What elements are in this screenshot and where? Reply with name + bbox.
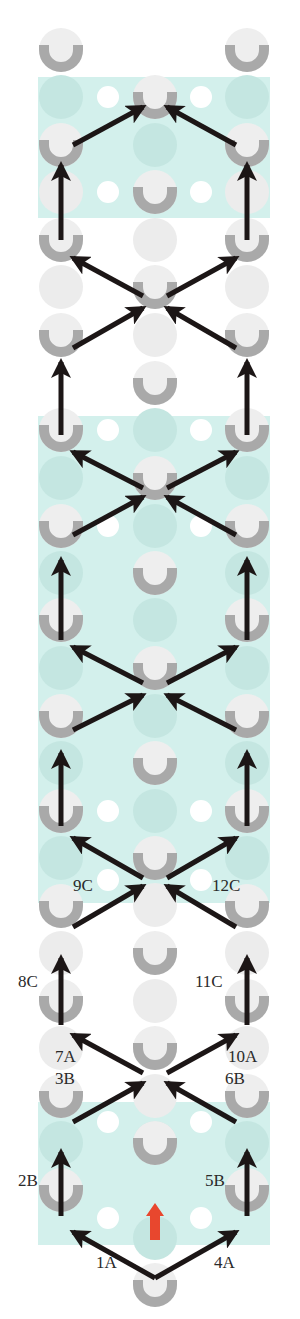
white-dot <box>190 1111 212 1133</box>
white-dot <box>190 181 212 203</box>
u-peg-icon <box>133 456 177 500</box>
u-peg-icon <box>39 694 83 738</box>
step-label: 11C <box>195 973 223 990</box>
u-peg-icon <box>39 504 83 548</box>
u-peg-icon <box>225 313 269 357</box>
band-circle <box>133 789 177 833</box>
ghost-circle <box>133 979 177 1023</box>
step-label: 10A <box>228 1048 257 1065</box>
u-peg-icon <box>225 694 269 738</box>
band-circle <box>39 646 83 690</box>
path-arrow <box>73 258 143 296</box>
u-peg-icon <box>133 265 177 309</box>
band-circle <box>39 456 83 500</box>
u-peg-icon <box>133 551 177 595</box>
step-label: 8C <box>18 973 38 990</box>
ghost-circle <box>225 265 269 309</box>
path-arrow <box>73 1035 143 1073</box>
u-peg-icon <box>225 504 269 548</box>
u-peg-icon <box>133 741 177 785</box>
band-circle <box>225 646 269 690</box>
white-dot <box>190 800 212 822</box>
white-dot <box>97 800 119 822</box>
ghost-circle <box>39 265 83 309</box>
u-peg-icon <box>133 75 177 119</box>
u-peg-icon <box>133 170 177 214</box>
u-peg-icon <box>133 1121 177 1165</box>
white-dot <box>97 869 119 891</box>
path-arrow <box>73 308 143 348</box>
white-dot <box>190 86 212 108</box>
ghost-circle <box>133 218 177 262</box>
step-label: 6B <box>225 1070 245 1087</box>
step-label: 9C <box>73 877 93 894</box>
path-arrow <box>167 308 236 348</box>
white-dot <box>97 181 119 203</box>
u-peg-icon <box>133 361 177 405</box>
band-circle <box>133 504 177 548</box>
stitch-path-diagram <box>0 0 300 1319</box>
u-peg-icon <box>133 931 177 975</box>
path-arrow <box>167 1035 236 1073</box>
step-label: 7A <box>55 1048 76 1065</box>
band-circle <box>133 408 177 452</box>
white-dot <box>97 419 119 441</box>
u-peg-icon <box>133 1026 177 1070</box>
u-peg-icon <box>225 28 269 72</box>
ghost-circle <box>133 313 177 357</box>
band-circle <box>133 598 177 642</box>
step-label: 2B <box>18 1172 38 1189</box>
u-peg-icon <box>39 28 83 72</box>
band-circle <box>225 456 269 500</box>
white-dot <box>190 869 212 891</box>
ghost-circle <box>133 1074 177 1118</box>
band-circle <box>133 694 177 738</box>
step-label: 12C <box>212 877 240 894</box>
white-dot <box>97 86 119 108</box>
white-dot <box>97 1207 119 1229</box>
u-peg-icon <box>39 313 83 357</box>
step-label: 4A <box>214 1254 235 1271</box>
white-dot <box>97 1111 119 1133</box>
band-circle <box>133 123 177 167</box>
step-label: 5B <box>205 1172 225 1189</box>
step-label: 3B <box>55 1070 75 1087</box>
white-dot <box>190 419 212 441</box>
band-circle <box>39 75 83 119</box>
band-circle <box>225 75 269 119</box>
white-dot <box>190 1207 212 1229</box>
step-label: 1A <box>96 1254 117 1271</box>
